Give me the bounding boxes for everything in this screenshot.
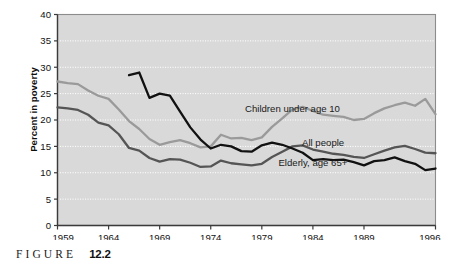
y-axis-ticks: 0510152025303540	[40, 9, 57, 231]
y-tick-label: 15	[40, 141, 51, 152]
x-tick-label: 1989	[353, 232, 374, 241]
poverty-line-chart: 0510152025303540 19591964196919741979198…	[0, 0, 462, 240]
y-tick-label: 20	[40, 114, 51, 125]
figure-caption: FIGURE 12.2	[16, 248, 111, 260]
x-tick-label: 1959	[53, 232, 74, 241]
y-tick-label: 30	[40, 62, 51, 73]
figure-caption-word: FIGURE	[16, 248, 76, 260]
x-tick-label: 1964	[98, 232, 120, 241]
x-tick-label: 1996	[419, 232, 440, 241]
figure-12-2: Percent in poverty 0510152025303540 1959…	[0, 0, 462, 271]
y-tick-label: 10	[40, 167, 51, 178]
y-tick-label: 0	[46, 220, 51, 231]
x-tick-label: 1984	[302, 232, 324, 241]
series-label: All people	[302, 137, 344, 148]
x-tick-label: 1974	[200, 232, 222, 241]
y-tick-label: 5	[46, 194, 51, 205]
plot-background	[58, 15, 436, 226]
y-tick-label: 40	[40, 9, 51, 20]
series-label: Children under age 10	[245, 103, 340, 114]
x-axis-ticks: 19591964196919741979198419891996	[53, 226, 441, 241]
y-tick-label: 35	[40, 35, 51, 46]
x-tick-label: 1969	[149, 232, 170, 241]
x-tick-label: 1979	[251, 232, 272, 241]
y-tick-label: 25	[40, 88, 51, 99]
series-label: Elderly, age 65+	[278, 157, 347, 168]
figure-caption-number: 12.2	[89, 248, 111, 260]
